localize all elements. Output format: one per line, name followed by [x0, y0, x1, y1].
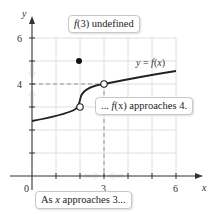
open-point-limit	[101, 81, 107, 87]
x-axis-arrow-icon	[195, 173, 203, 179]
callout-f3-undefined: f(3) undefined	[68, 15, 140, 33]
callout-as-x-approaches-3: As x approaches 3...	[35, 191, 132, 209]
callout-ellipsis: ...	[101, 100, 112, 111]
y-tick-label-4: 4	[17, 79, 22, 90]
x-tick-label-6: 6	[173, 183, 178, 194]
y-axis-arrow-icon	[29, 16, 35, 24]
callout-text: (3) undefined	[77, 18, 134, 29]
open-point-left	[77, 104, 83, 110]
origin-label: 0	[24, 183, 29, 194]
approach-arrows	[28, 60, 124, 180]
x-axis-label: x	[201, 182, 207, 193]
callout-approaches-4: ... f(x) approaches 4.	[95, 97, 193, 115]
callout-x: (x)	[114, 100, 126, 111]
callout-text: approaches 3...	[60, 194, 126, 205]
callout-as: As	[41, 194, 55, 205]
callout-text: approaches 4.	[127, 100, 187, 111]
curve-label: y = f(x)	[135, 57, 165, 69]
y-tick-label-6: 6	[17, 33, 22, 44]
y-axis-label: y	[21, 8, 27, 19]
filled-point	[76, 58, 82, 64]
